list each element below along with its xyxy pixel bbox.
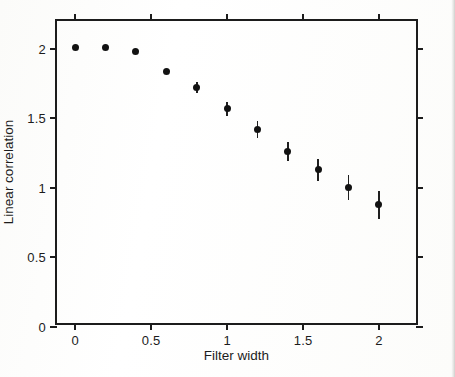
data-point: [102, 44, 109, 51]
x-tick-label-0.5: 0.5: [142, 333, 161, 348]
page-edge-shadow: [451, 0, 455, 377]
data-point: [315, 166, 322, 173]
y-tick-0: [50, 326, 57, 328]
x-tick-2: [378, 323, 380, 330]
data-point: [375, 201, 382, 208]
y-tick-label-0: 0: [39, 320, 46, 335]
y-tick-right-1: [416, 187, 423, 189]
x-tick-0.5: [150, 323, 152, 330]
x-tick-label-2: 2: [375, 333, 382, 348]
y-tick-right-0.5: [416, 256, 423, 258]
y-tick-0.5: [50, 256, 57, 258]
x-tick-top-1.5: [302, 14, 304, 21]
data-point: [345, 184, 352, 191]
y-tick-label-0.5: 0.5: [27, 250, 46, 265]
y-tick-label-1: 1: [39, 180, 46, 195]
y-tick-right-0: [416, 326, 423, 328]
data-point: [254, 126, 261, 133]
x-tick-1.5: [302, 323, 304, 330]
footer-scrap-text: [300, 364, 450, 375]
data-point: [72, 44, 79, 51]
x-tick-top-2: [378, 14, 380, 21]
x-tick-0: [74, 323, 76, 330]
x-axis-title: Filter width: [55, 348, 418, 363]
x-tick-top-1: [226, 14, 228, 21]
x-tick-label-0: 0: [72, 333, 79, 348]
y-tick-1.5: [50, 117, 57, 119]
data-point: [163, 68, 170, 75]
data-point: [284, 148, 291, 155]
x-tick-top-0.5: [150, 14, 152, 21]
y-tick-right-2: [416, 48, 423, 50]
y-axis-title: Linear correlation: [1, 120, 16, 224]
data-point: [193, 84, 200, 91]
plot-frame: 00.511.5200.511.52: [55, 19, 418, 325]
y-tick-2: [50, 48, 57, 50]
x-tick-label-1.5: 1.5: [294, 333, 313, 348]
y-tick-right-1.5: [416, 117, 423, 119]
x-tick-1: [226, 323, 228, 330]
x-tick-top-0: [74, 14, 76, 21]
figure-panel: 00.511.5200.511.52 Linear correlation Fi…: [0, 0, 455, 377]
y-tick-label-1.5: 1.5: [27, 111, 46, 126]
data-point: [224, 105, 231, 112]
y-tick-label-2: 2: [39, 41, 46, 56]
x-tick-label-1: 1: [223, 333, 230, 348]
data-point: [132, 48, 139, 55]
y-tick-1: [50, 187, 57, 189]
